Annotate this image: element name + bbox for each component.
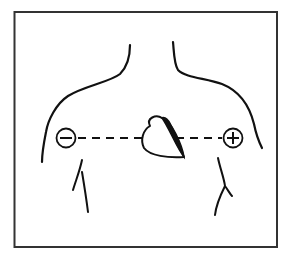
- torso-right-outline: [173, 42, 262, 148]
- torso-left-arm-line: [73, 160, 88, 212]
- positive-electrode: [224, 129, 243, 148]
- torso-left-outline: [42, 45, 130, 162]
- heart-icon: [142, 116, 184, 157]
- torso-right-arm-line: [215, 158, 232, 215]
- negative-electrode: [57, 129, 76, 148]
- ecg-diagram: [0, 0, 290, 259]
